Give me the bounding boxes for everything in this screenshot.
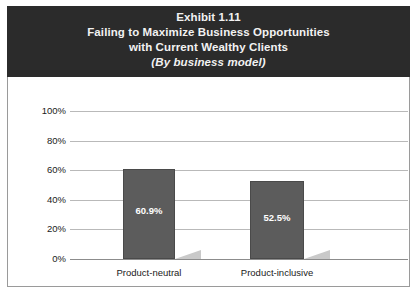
bar-shadow-product-inclusive bbox=[304, 250, 330, 259]
ytick-100-wrap: 100% bbox=[8, 106, 66, 116]
chart-title-banner: Exhibit 1.11 Failing to Maximize Busines… bbox=[7, 6, 410, 77]
bar-value-label-product-neutral: 60.9% bbox=[124, 205, 174, 216]
chart-title-line-1: Exhibit 1.11 bbox=[7, 10, 410, 25]
ytick-20-wrap: 20% bbox=[8, 224, 66, 234]
gridline-60 bbox=[70, 170, 408, 171]
ytick-label-80: 80% bbox=[10, 136, 66, 146]
gridline-20 bbox=[70, 229, 408, 230]
chart-title-line-3: with Current Wealthy Clients bbox=[7, 40, 410, 55]
gridline-baseline-0 bbox=[70, 259, 408, 260]
bar-shadow-product-neutral bbox=[175, 250, 201, 259]
chart-subtitle: (By business model) bbox=[7, 55, 410, 70]
gridline-80 bbox=[70, 141, 408, 142]
ytick-label-60: 60% bbox=[10, 165, 66, 175]
gridline-40 bbox=[70, 200, 408, 201]
chart-title-line-2: Failing to Maximize Business Opportuniti… bbox=[7, 25, 410, 40]
bar-value-label-product-inclusive: 52.5% bbox=[251, 212, 303, 223]
gridline-100 bbox=[70, 111, 408, 112]
plot-card: 100% 80% 60% 40% 20% 0% 60.9% bbox=[7, 77, 410, 287]
ytick-label-0: 0% bbox=[10, 254, 66, 264]
ytick-60-wrap: 60% bbox=[8, 165, 66, 175]
ytick-80-wrap: 80% bbox=[8, 136, 66, 146]
xlabel-product-inclusive: Product-inclusive bbox=[217, 267, 337, 278]
ytick-0-wrap: 0% bbox=[8, 254, 66, 264]
plot-area: 100% 80% 60% 40% 20% 0% 60.9% bbox=[8, 77, 409, 285]
xlabel-product-neutral: Product-neutral bbox=[89, 267, 209, 278]
bar-product-neutral: 60.9% bbox=[123, 169, 175, 259]
ytick-label-20: 20% bbox=[10, 224, 66, 234]
ytick-40-wrap: 40% bbox=[8, 195, 66, 205]
ytick-label-40: 40% bbox=[10, 195, 66, 205]
bar-product-inclusive: 52.5% bbox=[250, 181, 304, 259]
exhibit-figure: Exhibit 1.11 Failing to Maximize Busines… bbox=[7, 6, 410, 287]
ytick-label-100: 100% bbox=[10, 106, 66, 116]
